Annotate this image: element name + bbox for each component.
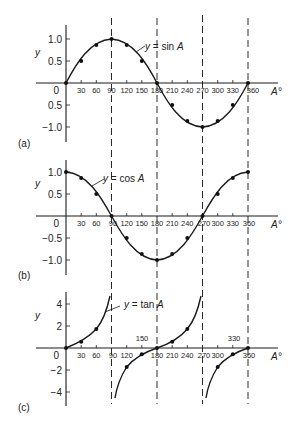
x-tick-label: 60: [92, 351, 100, 360]
panel-c-tangent: 4 2 0 −2 −4 y 30 60 90 120 180 210 240 2…: [18, 292, 282, 413]
x-tick-label: 300: [211, 219, 224, 228]
y-axis-label: y: [34, 47, 41, 58]
x-tick-label: 210: [166, 219, 179, 228]
y-tick-label: −1.0: [42, 255, 62, 266]
x-tick-label: 300: [211, 86, 224, 95]
x-tick-label: 240: [181, 219, 194, 228]
y-tick-label: −2: [51, 365, 63, 376]
y-tick-label: 0.5: [48, 100, 62, 111]
x-tick-label: 300: [211, 351, 224, 360]
x-tick-label: 120: [120, 351, 133, 360]
x-tick-label: 150: [136, 86, 149, 95]
x-tick-label: 30: [77, 219, 85, 228]
y-tick-label: 4: [56, 299, 62, 310]
tangent-equation-label: y = tan A: [123, 299, 164, 310]
dashed-reference-lines: [112, 15, 249, 404]
panel-label-c: (c): [18, 402, 30, 413]
y-tick-label: −1.0: [42, 122, 62, 133]
y-tick-label: 1.0: [48, 34, 62, 45]
x-tick-label-above: 150: [136, 334, 149, 343]
y-tick-label: 0: [53, 350, 59, 361]
panel-b-cosine: 1.0 0.5 0 −0.5 −1.0 y 30 60 90 120 150 1…: [18, 160, 282, 281]
sine-equation-label: y = sin A: [144, 41, 184, 52]
y-tick-label: 1.0: [48, 167, 62, 178]
panel-label-b: (b): [18, 270, 30, 281]
x-tick-label: 180: [151, 351, 164, 360]
y-tick-label: 0: [53, 218, 59, 229]
x-tick-label: 30: [77, 86, 85, 95]
trig-graphs-figure: 1.0 0.5 0 0.5 −1.0 y 30 60 90 120 150 18…: [0, 0, 296, 426]
x-tick-label: 90: [109, 351, 117, 360]
x-axis-label: A°: [270, 86, 282, 97]
x-tick-label: 330: [227, 219, 240, 228]
x-tick-label: 210: [166, 351, 179, 360]
y-tick-label: 0.5: [48, 56, 62, 67]
y-tick-label: 0.5: [48, 189, 62, 200]
x-tick-label: 210: [166, 86, 179, 95]
y-tick-label: −0.5: [42, 233, 62, 244]
y-tick-label: 0: [53, 85, 59, 96]
x-axis-label: A°: [270, 351, 282, 362]
x-tick-label: 240: [181, 86, 194, 95]
cosine-equation-label: y = cos A: [102, 173, 145, 184]
x-tick-label: 270: [196, 86, 209, 95]
y-axis-label: y: [34, 310, 41, 321]
x-tick-label-above: 330: [228, 334, 241, 343]
x-tick-label: 30: [77, 351, 85, 360]
y-axis-label: y: [34, 178, 41, 189]
x-tick-label: 360: [247, 86, 260, 95]
panel-label-a: (a): [18, 138, 30, 149]
x-tick-label: 240: [181, 351, 194, 360]
x-tick-label: 90: [107, 86, 115, 95]
x-tick-label: 180: [151, 219, 164, 228]
tangent-branch-1: [66, 296, 110, 348]
x-tick-label: 60: [92, 219, 100, 228]
x-tick-label: 120: [120, 219, 133, 228]
y-tick-label: −4: [51, 387, 63, 398]
x-tick-label: 120: [120, 86, 133, 95]
x-tick-label: 60: [92, 86, 100, 95]
y-tick-label: 2: [56, 321, 62, 332]
x-tick-label: 150: [136, 219, 149, 228]
x-tick-label: 360: [243, 351, 256, 360]
x-axis-label: A°: [270, 219, 282, 230]
x-tick-label: 330: [227, 86, 240, 95]
x-tick-label: 270: [198, 351, 211, 360]
x-tick-label: 360: [243, 219, 256, 228]
panel-a-sine: 1.0 0.5 0 0.5 −1.0 y 30 60 90 120 150 18…: [18, 25, 282, 149]
